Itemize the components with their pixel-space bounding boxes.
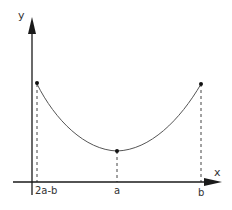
tick-label-a: a <box>114 185 120 196</box>
y-axis-label: y <box>18 9 25 22</box>
point-minimum <box>115 149 119 153</box>
point-right-endpoint <box>199 82 203 86</box>
tick-label-2a-b: 2a-b <box>35 185 57 196</box>
curve <box>37 84 201 151</box>
x-axis-arrow-icon <box>204 178 222 186</box>
tick-label-b: b <box>198 187 204 198</box>
x-axis-label: x <box>214 166 221 179</box>
point-left-endpoint <box>35 81 39 85</box>
function-graph: y x 2a-b a b <box>0 0 232 210</box>
y-axis-arrow-icon <box>28 17 36 34</box>
